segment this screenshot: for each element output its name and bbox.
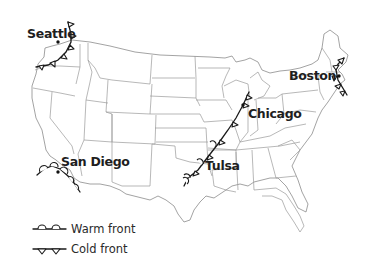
- san-diego-label: San Diego: [61, 154, 130, 169]
- legend-item-cold-front: Cold front: [33, 242, 128, 256]
- boston-dot: [337, 74, 340, 77]
- chicago-dot: [241, 103, 244, 106]
- legend: Warm front Cold front: [33, 222, 136, 256]
- legend-label-cold-front: Cold front: [71, 242, 128, 256]
- legend-item-warm-front: Warm front: [33, 222, 136, 236]
- tulsa-label: Tulsa: [205, 158, 240, 173]
- san-diego-dot: [56, 170, 59, 173]
- boston-label: Boston: [289, 68, 336, 83]
- legend-label-warm-front: Warm front: [71, 222, 136, 236]
- seattle-label: Seattle: [27, 26, 76, 41]
- us-weather-map: Seattle San Diego Chicago Tulsa Boston: [0, 0, 370, 271]
- chicago-label: Chicago: [248, 106, 302, 121]
- us-outline: [32, 30, 348, 222]
